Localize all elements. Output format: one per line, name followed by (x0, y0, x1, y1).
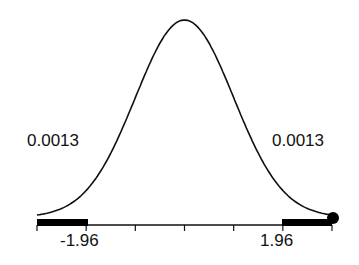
left-critical-value-label: -1.96 (60, 232, 99, 249)
right-tail-bar (282, 219, 332, 226)
bell-curve (37, 20, 332, 215)
endpoint-marker (327, 212, 339, 224)
right-critical-value-label: 1.96 (260, 232, 293, 249)
right-tail-probability: 0.0013 (272, 132, 324, 149)
left-tail-bar (37, 219, 88, 226)
left-tail-probability: 0.0013 (27, 132, 79, 149)
